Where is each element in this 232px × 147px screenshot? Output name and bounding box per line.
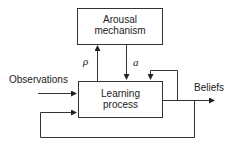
rho-label: ρ	[83, 56, 88, 67]
beliefs-label: Beliefs	[194, 82, 224, 93]
arousal-line1: Arousal	[77, 14, 163, 25]
observations-label: Observations	[9, 74, 68, 85]
learning-process-label: Learning process	[78, 88, 163, 110]
arousal-mechanism-label: Arousal mechanism	[77, 14, 163, 36]
learning-line1: Learning	[78, 88, 163, 99]
a-label: a	[133, 57, 139, 68]
arousal-line2: mechanism	[77, 25, 163, 36]
learning-line2: process	[78, 99, 163, 110]
